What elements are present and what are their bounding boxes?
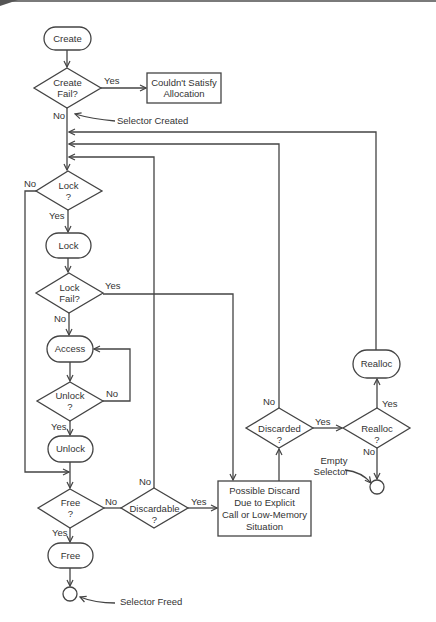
node-lock: Lock [46,233,91,258]
svg-text:Free: Free [61,497,81,508]
label-realloc-yes: Yes [382,398,398,409]
svg-text:?: ? [277,434,282,445]
label-create-fail-yes: Yes [104,75,120,86]
node-lock-decision: Lock ? [36,171,102,210]
node-end-freed [63,587,77,601]
svg-text:?: ? [66,191,71,202]
svg-text:?: ? [374,434,379,445]
svg-text:Lock: Lock [58,180,78,191]
annotation-selector-created: Selector Created [117,115,188,126]
label-discardable-no: No [139,476,151,487]
svg-text:Allocation: Allocation [163,88,204,99]
svg-text:Lock: Lock [58,240,78,251]
svg-text:Fail?: Fail? [57,88,78,99]
node-access: Access [47,336,93,362]
svg-text:Call or Low-Memory: Call or Low-Memory [222,509,307,520]
label-discardable-yes: Yes [191,496,207,507]
svg-text:Discarded: Discarded [258,423,301,434]
label-discarded-yes: Yes [315,416,331,427]
svg-text:Possible Discard: Possible Discard [229,485,300,496]
svg-text:?: ? [152,514,157,525]
node-couldnt-satisfy-allocation: Couldn't Satisfy Allocation [147,73,221,103]
svg-text:Create: Create [53,77,82,88]
svg-text:Realloc: Realloc [361,423,393,434]
svg-text:Fail?: Fail? [59,293,80,304]
node-create-fail-decision: Create Fail? [34,68,101,108]
label-create-fail-no: No [53,110,65,121]
label-lock-yes: Yes [49,210,65,221]
node-unlock: Unlock [48,436,93,462]
svg-text:Couldn't Satisfy: Couldn't Satisfy [151,77,217,88]
node-end-empty-selector [370,480,384,494]
label-lock-fail-yes: Yes [105,280,121,291]
svg-text:Unlock: Unlock [55,390,84,401]
node-unlock-decision: Unlock ? [37,382,103,421]
node-free-decision: Free ? [38,489,104,528]
label-lock-fail-no: No [54,313,66,324]
node-free: Free [48,543,93,568]
label-lock-no: No [24,178,36,189]
label-unlock-no: No [106,388,118,399]
svg-text:Access: Access [55,343,86,354]
svg-text:Create: Create [53,33,82,44]
svg-text:?: ? [67,401,72,412]
svg-text:Lock: Lock [59,282,79,293]
svg-text:?: ? [68,508,73,519]
node-realloc: Realloc [353,350,400,378]
svg-text:Discardable: Discardable [129,503,179,514]
label-realloc-no: No [363,446,375,457]
label-free-yes: Yes [52,527,68,538]
annotation-empty-selector-line1: Empty [321,455,348,466]
svg-text:Situation: Situation [246,521,283,532]
annotation-empty-selector-line2: Selector [314,466,349,477]
svg-text:Free: Free [61,550,81,561]
flowchart: Create Create Fail? Couldn't Satisfy All… [0,0,436,622]
svg-text:Unlock: Unlock [56,443,85,454]
node-discardable-decision: Discardable ? [121,488,188,528]
annotation-selector-freed: Selector Freed [120,596,182,607]
node-possible-discard: Possible Discard Due to Explicit Call or… [218,481,311,536]
svg-text:Realloc: Realloc [361,358,393,369]
node-realloc-decision: Realloc ? [343,408,410,448]
svg-text:Due to Explicit: Due to Explicit [234,497,295,508]
label-free-no: No [105,496,117,507]
node-lock-fail-decision: Lock Fail? [36,273,103,313]
node-create: Create [44,27,91,50]
label-discarded-no: No [263,396,275,407]
node-discarded-decision: Discarded ? [246,408,313,448]
label-unlock-yes: Yes [51,421,67,432]
